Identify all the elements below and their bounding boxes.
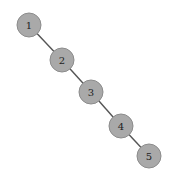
node-3: 3 [79, 80, 103, 104]
node-label: 1 [26, 20, 32, 31]
node-1: 1 [17, 13, 41, 37]
node-2: 2 [50, 48, 74, 72]
node-label: 4 [118, 121, 124, 132]
node-4: 4 [109, 114, 133, 138]
graph-canvas: 1 2 3 4 5 [0, 0, 178, 178]
node-5: 5 [137, 144, 161, 168]
node-label: 3 [88, 87, 94, 98]
node-label: 5 [146, 151, 152, 162]
node-label: 2 [59, 55, 65, 66]
